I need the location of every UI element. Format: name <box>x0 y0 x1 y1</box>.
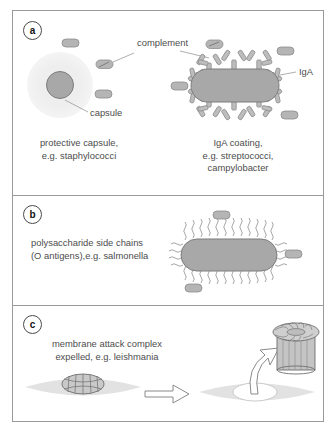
complement-label: complement <box>137 37 188 48</box>
complement-capsule-icon <box>285 250 302 258</box>
panel-a-caption-right: IgA coating, e.g. streptococci, campylob… <box>173 137 303 175</box>
panel-b: b <box>13 195 323 305</box>
complement-capsule-icon <box>96 60 113 69</box>
panel-b-caption: polysaccharide side chains (O antigens),… <box>31 237 181 262</box>
complement-capsule-icon <box>277 47 294 55</box>
complement-capsule-icon <box>171 82 188 90</box>
complement-capsule-icon <box>62 39 79 47</box>
capsule-cell-icon <box>47 72 74 99</box>
complement-capsule-icon <box>206 40 223 49</box>
complement-capsule-icon <box>185 284 202 292</box>
capsule-label: capsule <box>90 107 122 118</box>
panel-a: a <box>13 11 323 195</box>
mac-pore-icon <box>273 323 319 374</box>
complement-leader-left <box>113 53 134 62</box>
iga-label: IgA <box>299 66 313 77</box>
iga-leader <box>280 72 296 75</box>
panel-c-caption: membrane attack complex expelled, e.g. l… <box>27 338 187 363</box>
complement-capsule-icon <box>281 111 298 119</box>
panel-c: c <box>13 305 323 422</box>
complement-capsule-icon <box>95 90 112 98</box>
rod-bacterium-icon <box>191 69 279 102</box>
mac-pore-icon <box>62 374 104 394</box>
block-arrow-icon <box>145 385 189 403</box>
rod-bacterium-icon <box>181 239 277 271</box>
figure-container: a <box>12 10 324 422</box>
panel-a-caption-left: protective capsule, e.g. staphylococci <box>13 137 145 162</box>
complement-capsule-icon <box>213 211 230 219</box>
panel-c-graphic <box>13 306 325 423</box>
